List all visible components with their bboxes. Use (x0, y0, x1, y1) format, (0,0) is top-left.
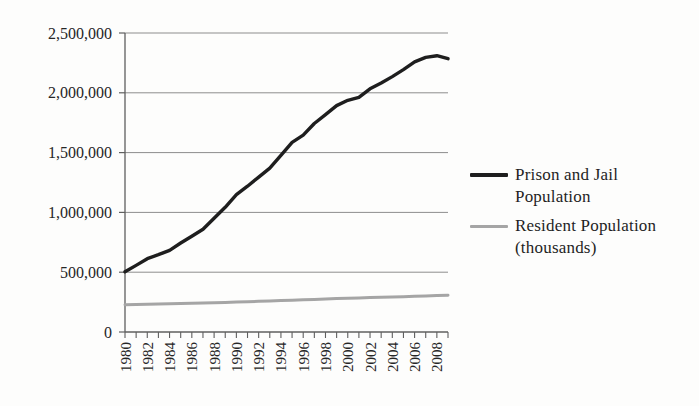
y-tick-label: 1,500,000 (48, 144, 112, 161)
resident-line-swatch (470, 225, 508, 228)
x-tick-label: 2008 (429, 342, 445, 372)
x-tick-label: 1986 (184, 342, 200, 373)
y-tick-label: 2,000,000 (48, 84, 112, 101)
legend-label-resident: Resident Population (thousands) (515, 215, 656, 259)
y-tick-label: 500,000 (60, 264, 112, 281)
x-tick-label: 1992 (251, 342, 267, 372)
legend-label-line: Population (515, 186, 618, 208)
x-tick-label: 1984 (162, 342, 178, 373)
x-tick-label: 2006 (407, 342, 423, 373)
chart-legend: Prison and Jail Population Resident Popu… (470, 164, 696, 259)
legend-label-line: Prison and Jail (515, 164, 618, 186)
x-tick-label: 2000 (340, 342, 356, 372)
x-tick-label: 1994 (273, 342, 289, 373)
x-tick-label: 2004 (385, 342, 401, 373)
legend-label-prison-jail: Prison and Jail Population (515, 164, 618, 208)
y-tick-label: 1,000,000 (48, 204, 112, 221)
x-tick-label: 1988 (207, 342, 223, 372)
x-tick-label: 1980 (118, 342, 134, 372)
x-tick-label: 1982 (140, 342, 156, 372)
y-tick-label: 0 (104, 324, 112, 341)
chart-page: 0500,0001,000,0001,500,0002,000,0002,500… (0, 0, 699, 406)
prison-jail-line-swatch (470, 173, 508, 177)
x-tick-label: 1996 (296, 342, 312, 373)
legend-label-line: Resident Population (515, 215, 656, 237)
y-tick-label: 2,500,000 (48, 25, 112, 42)
x-tick-label: 1998 (318, 342, 334, 372)
x-tick-label: 1990 (229, 342, 245, 372)
legend-label-line: (thousands) (515, 237, 656, 259)
x-tick-label: 2002 (363, 342, 379, 372)
legend-item-prison-jail: Prison and Jail Population (470, 164, 696, 208)
prison-jail-population-line (125, 56, 448, 272)
legend-item-resident: Resident Population (thousands) (470, 215, 696, 259)
resident-population-line (125, 295, 448, 305)
